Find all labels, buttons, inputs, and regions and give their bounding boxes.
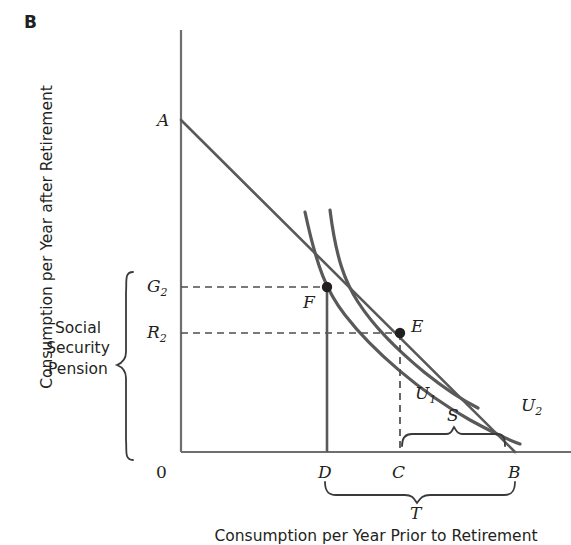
curve-label-u1: U1 xyxy=(415,383,436,406)
brace-social-security-pension xyxy=(117,272,133,460)
curve-label-u2: U2 xyxy=(521,395,542,418)
x-tick-label-b: B xyxy=(508,462,521,482)
x-tick-label-c: C xyxy=(392,462,405,482)
brace-t xyxy=(325,482,515,503)
point-label-a: A xyxy=(157,110,169,130)
point-label-f: F xyxy=(303,292,315,312)
brace-label-t: T xyxy=(410,503,421,523)
origin-label: 0 xyxy=(156,462,167,482)
point-label-e: E xyxy=(411,316,423,336)
y-tick-label-r2: R2 xyxy=(147,322,167,345)
brace-label-s: S xyxy=(447,405,459,425)
point-marker-e xyxy=(395,328,405,338)
y-tick-label-g2: G2 xyxy=(147,276,168,299)
point-marker-f xyxy=(322,282,332,292)
indifference-curve-u1 xyxy=(330,210,478,408)
x-tick-label-d: D xyxy=(318,462,332,482)
